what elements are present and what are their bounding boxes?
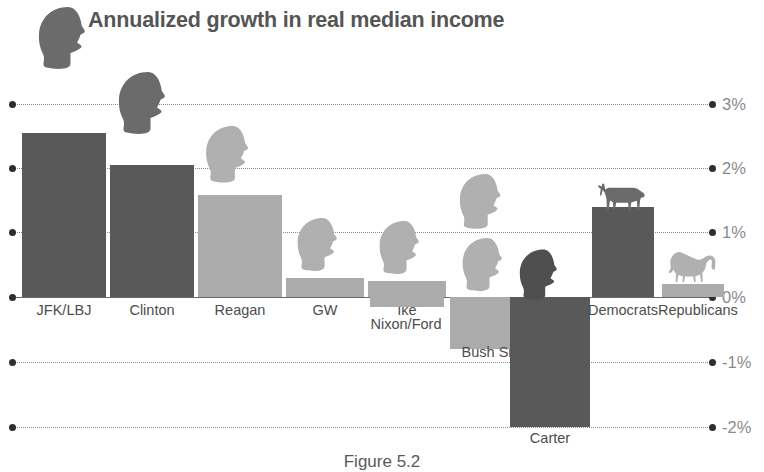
gridline-dot-left-neg2 <box>9 424 16 431</box>
head-silhouette-clinton <box>110 70 178 142</box>
gridline-dot-left-1 <box>9 229 16 236</box>
y-axis-label-neg2: -2% <box>722 418 751 437</box>
head-silhouette-ike <box>372 219 430 281</box>
category-label-jfk-lbj: JFK/LBJ <box>22 302 106 318</box>
bar-gw[interactable] <box>286 278 364 297</box>
donkey-icon <box>594 182 652 210</box>
category-label-gw: GW <box>286 302 364 318</box>
gridline-zero <box>12 297 712 298</box>
gridline-dot-right-neg1 <box>709 359 716 366</box>
category-label-clinton: Clinton <box>110 302 194 318</box>
figure-caption: Figure 5.2 <box>0 452 764 472</box>
gridline-dot-left-neg1 <box>9 359 16 366</box>
head-silhouette-bush-sr <box>455 236 513 298</box>
gridline-neg2 <box>12 427 712 428</box>
head-silhouette-jfk-lbj <box>30 5 98 77</box>
bar-clinton[interactable] <box>110 165 194 297</box>
bar-ike[interactable] <box>368 281 446 297</box>
y-axis-label-1: 1% <box>722 223 746 242</box>
gridline-dot-right-3 <box>709 101 716 108</box>
gridline-3 <box>12 104 712 105</box>
gridline-neg1 <box>12 362 712 363</box>
head-silhouette-gw <box>290 216 348 278</box>
bar-carter[interactable] <box>510 297 590 427</box>
gridline-dot-left-2 <box>9 165 16 172</box>
category-label-democrats: Democrats <box>584 302 662 318</box>
gridline-dot-left-0 <box>9 294 16 301</box>
head-silhouette-nixon-ford <box>452 172 512 236</box>
bar-jfk-lbj[interactable] <box>22 133 106 297</box>
gridline-dot-right-1 <box>709 229 716 236</box>
y-axis-label-3: 3% <box>722 95 746 114</box>
gridline-dot-left-3 <box>9 101 16 108</box>
category-label-republicans: Republicans <box>658 302 736 318</box>
bar-nixon-ford-body[interactable] <box>370 297 444 307</box>
bar-reagan[interactable] <box>198 195 282 297</box>
category-label-reagan: Reagan <box>198 302 282 318</box>
gridline-dot-right-2 <box>709 165 716 172</box>
y-axis-label-2: 2% <box>722 159 746 178</box>
category-label-nixon-ford: Nixon/Ford <box>358 316 454 332</box>
y-axis-label-neg1: -1% <box>722 353 751 372</box>
head-silhouette-reagan <box>198 124 260 190</box>
bar-democrats[interactable] <box>592 207 654 297</box>
gridline-dot-right-neg2 <box>709 424 716 431</box>
category-label-carter: Carter <box>510 430 590 446</box>
elephant-icon <box>664 248 722 286</box>
